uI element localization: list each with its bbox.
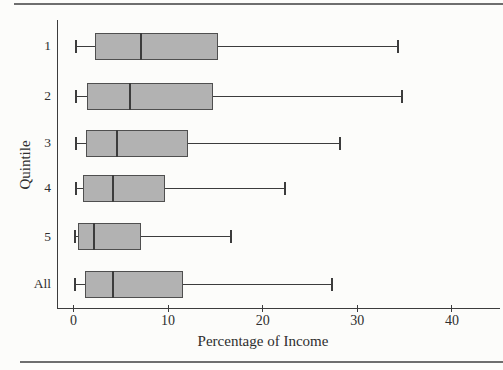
y-category-label: 2 — [11, 87, 51, 105]
x-axis-tick — [73, 305, 74, 312]
x-axis-tick-label: 40 — [435, 313, 469, 329]
y-category-label: 3 — [11, 134, 51, 152]
lower-whisker-line — [76, 46, 95, 47]
y-category-label: All — [11, 275, 51, 293]
median-line — [112, 271, 114, 298]
iqr-box — [78, 223, 140, 250]
lower-whisker-line — [76, 143, 85, 144]
upper-whisker-line — [213, 96, 402, 97]
iqr-box — [95, 33, 218, 60]
upper-whisker-cap — [397, 40, 399, 53]
median-line — [116, 130, 118, 157]
upper-whisker-cap — [284, 182, 286, 195]
x-axis-tick-label: 20 — [246, 313, 280, 329]
upper-whisker-line — [165, 188, 285, 189]
x-axis-tick — [357, 305, 358, 312]
x-axis-line — [57, 308, 500, 309]
upper-whisker-line — [183, 284, 332, 285]
lower-whisker-cap — [74, 230, 76, 243]
median-line — [93, 223, 95, 250]
y-category-label: 1 — [11, 37, 51, 55]
lower-whisker-cap — [74, 278, 76, 291]
upper-whisker-line — [188, 143, 340, 144]
median-line — [112, 175, 114, 202]
iqr-box — [83, 175, 165, 202]
y-category-label: 5 — [11, 228, 51, 246]
boxplot-figure: Quintile Percentage of Income 0102030401… — [0, 0, 503, 370]
y-axis-line — [57, 20, 58, 308]
lower-whisker-cap — [75, 40, 77, 53]
x-axis-tick-label: 0 — [57, 313, 91, 329]
y-category-label: 4 — [11, 179, 51, 197]
median-line — [140, 33, 142, 60]
upper-whisker-line — [141, 236, 231, 237]
upper-whisker-cap — [339, 137, 341, 150]
x-axis-tick — [168, 305, 169, 312]
x-axis-tick — [262, 305, 263, 312]
iqr-box — [85, 271, 183, 298]
lower-whisker-cap — [75, 137, 77, 150]
bottom-rule — [20, 361, 503, 363]
top-rule — [14, 3, 503, 5]
iqr-box — [87, 83, 213, 110]
iqr-box — [86, 130, 188, 157]
upper-whisker-cap — [230, 230, 232, 243]
lower-whisker-line — [76, 96, 86, 97]
median-line — [129, 83, 131, 110]
x-axis-title: Percentage of Income — [163, 333, 363, 350]
x-axis-tick-label: 10 — [151, 313, 185, 329]
upper-whisker-line — [218, 46, 398, 47]
x-axis-tick-label: 30 — [340, 313, 374, 329]
upper-whisker-cap — [401, 90, 403, 103]
lower-whisker-line — [75, 284, 84, 285]
lower-whisker-cap — [75, 182, 77, 195]
upper-whisker-cap — [331, 278, 333, 291]
x-axis-tick — [451, 305, 452, 312]
lower-whisker-cap — [75, 90, 77, 103]
